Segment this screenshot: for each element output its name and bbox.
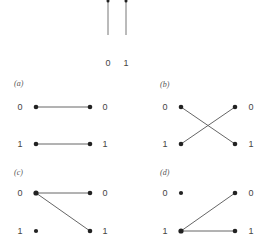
panel-b-label: (b): [160, 80, 170, 89]
wire-1-top-node: [125, 0, 128, 3]
panel-c-right-label-0: 0: [102, 188, 107, 198]
panel-d-right-node-1: [233, 229, 238, 234]
wire-1-label: 1: [123, 58, 128, 68]
panel-b-left-label-0: 0: [162, 102, 167, 112]
panel-c-right-node-1: [88, 229, 93, 234]
panel-c-left-label-1: 1: [17, 226, 22, 236]
panel-c-right-label-1: 1: [102, 226, 107, 236]
panel-c-label: (c): [14, 168, 23, 177]
panel-a: (a) 0 1 0 1: [14, 79, 108, 149]
panel-a-right-node-0: [88, 105, 93, 110]
panel-b-left-label-1: 1: [162, 139, 167, 149]
panel-a-right-node-1: [88, 142, 93, 147]
panel-b-right-node-0: [233, 105, 238, 110]
panel-d-label: (d): [160, 168, 170, 177]
panel-a-left-label-1: 1: [17, 139, 22, 149]
panel-d-right-label-1: 1: [248, 226, 253, 236]
panel-b: (b) 0 1 0 1: [160, 80, 254, 149]
panel-b-left-node-1: [179, 142, 184, 147]
diagram-canvas: 0 1 (a) 0 1 0 1 (b) 0 1 0 1 (c) 0 1 0 1: [0, 0, 265, 247]
panel-d-left-label-0: 0: [162, 188, 167, 198]
panel-d: (d) 0 1 0 1: [160, 168, 254, 236]
top-wires: 0 1: [105, 0, 128, 68]
panel-a-label: (a): [14, 79, 24, 88]
panel-a-left-node-0: [34, 105, 39, 110]
panel-d-left-node-0: [179, 191, 183, 195]
panel-d-right-label-0: 0: [248, 188, 253, 198]
panel-c-left-label-0: 0: [17, 188, 22, 198]
panel-a-left-node-1: [34, 142, 39, 147]
panel-c-left-node-1: [34, 229, 38, 233]
panel-b-right-node-1: [233, 142, 238, 147]
wire-0-label: 0: [105, 58, 110, 68]
panel-a-right-label-0: 0: [102, 102, 107, 112]
panel-d-edge-1-0: [181, 193, 235, 231]
panel-c-left-node-0: [33, 190, 38, 195]
panel-c-edge-0-1: [36, 193, 90, 231]
panel-a-left-label-0: 0: [17, 102, 22, 112]
panel-d-left-label-1: 1: [162, 226, 167, 236]
panel-a-right-label-1: 1: [102, 139, 107, 149]
panel-d-right-node-0: [233, 191, 238, 196]
panel-b-right-label-1: 1: [248, 139, 253, 149]
panel-c: (c) 0 1 0 1: [14, 168, 108, 236]
panel-b-left-node-0: [179, 105, 184, 110]
wire-0-top-node: [107, 0, 110, 3]
panel-d-left-node-1: [178, 228, 183, 233]
panel-c-right-node-0: [88, 191, 93, 196]
panel-b-right-label-0: 0: [248, 102, 253, 112]
